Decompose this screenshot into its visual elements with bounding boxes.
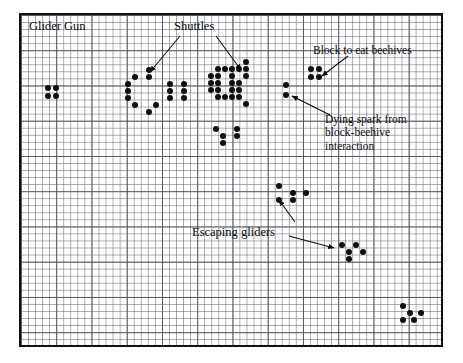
life-cell — [346, 249, 352, 255]
life-cell — [290, 190, 296, 196]
life-cell — [222, 66, 228, 72]
life-cell — [222, 94, 228, 100]
life-cell — [45, 93, 51, 99]
life-cell — [290, 197, 296, 203]
life-cell — [215, 94, 221, 100]
life-cell — [283, 82, 289, 88]
life-cell — [308, 74, 314, 80]
life-cell — [125, 88, 131, 94]
life-cell — [243, 73, 249, 79]
life-cell — [353, 242, 359, 248]
life-cell — [181, 88, 187, 94]
life-cell — [229, 80, 235, 86]
life-cell — [146, 109, 152, 115]
life-cell — [125, 81, 131, 87]
life-cell — [243, 59, 249, 65]
life-cell — [229, 66, 235, 72]
life-cell — [215, 66, 221, 72]
life-cell — [418, 310, 424, 316]
life-cell — [303, 190, 309, 196]
life-cell — [167, 81, 173, 87]
life-cell — [411, 317, 417, 323]
life-cell — [236, 66, 242, 72]
life-cell — [360, 249, 366, 255]
graph-paper-grid — [19, 13, 443, 347]
life-cell — [132, 102, 138, 108]
life-cell — [181, 81, 187, 87]
life-cell — [220, 133, 226, 139]
life-cell — [125, 95, 131, 101]
annotation-label-shuttles: Shuttles — [174, 19, 214, 34]
annotation-label-escaping-gliders: Escaping gliders — [192, 225, 275, 240]
life-cell — [234, 126, 240, 132]
life-cell — [53, 93, 59, 99]
page-title: Glider Gun — [29, 19, 86, 34]
life-cell — [208, 87, 214, 93]
glider-gun-figure: Glider Gun Shuttles Block to eat beehive… — [0, 0, 463, 363]
dying-spark-line-2: block-beehive — [325, 126, 390, 138]
life-cell — [243, 66, 249, 72]
life-cell — [215, 73, 221, 79]
life-cell — [346, 256, 352, 262]
life-cell — [167, 95, 173, 101]
annotation-label-block-to-eat-beehives: Block to eat beehives — [313, 44, 412, 57]
life-cell — [45, 85, 51, 91]
life-cell — [208, 80, 214, 86]
life-cell — [53, 85, 59, 91]
life-cell — [208, 73, 214, 79]
life-cell — [153, 102, 159, 108]
life-cell — [400, 317, 406, 323]
life-cell — [229, 87, 235, 93]
life-cell — [276, 183, 282, 189]
annotation-label-dying-spark: Dying spark fromblock-beehiveinteraction — [325, 113, 407, 153]
life-cell — [236, 94, 242, 100]
life-cell — [215, 80, 221, 86]
life-cell — [215, 87, 221, 93]
life-cell — [220, 140, 226, 146]
life-cell — [229, 73, 235, 79]
life-cell — [339, 242, 345, 248]
life-cell — [167, 88, 173, 94]
life-cell — [236, 80, 242, 86]
life-cell — [181, 95, 187, 101]
life-cell — [243, 101, 249, 107]
dying-spark-line-1: Dying spark from — [325, 113, 407, 125]
life-cell — [213, 126, 219, 132]
life-cell — [146, 67, 152, 73]
life-cell — [308, 66, 314, 72]
dying-spark-line-3: interaction — [325, 140, 374, 152]
life-cell — [316, 74, 322, 80]
life-cell — [229, 94, 235, 100]
life-cell — [132, 74, 138, 80]
life-cell — [146, 74, 152, 80]
life-cell — [283, 92, 289, 98]
life-cell — [276, 197, 282, 203]
life-cell — [234, 133, 240, 139]
life-cell — [400, 303, 406, 309]
life-cell — [316, 66, 322, 72]
life-cell — [236, 87, 242, 93]
life-cell — [407, 310, 413, 316]
